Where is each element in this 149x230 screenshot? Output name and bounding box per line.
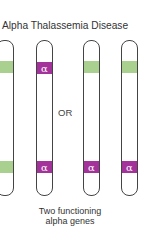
caption-line-2: alpha genes xyxy=(28,216,112,226)
or-separator: OR xyxy=(58,107,72,118)
alpha-symbol: α xyxy=(126,162,133,173)
chromosome-4: α xyxy=(121,40,138,196)
diagram-title: Alpha Thalassemia Disease xyxy=(2,20,149,31)
functional-gene-band xyxy=(0,161,13,173)
functional-gene-band xyxy=(122,61,137,73)
alpha-gene-band: α xyxy=(37,161,52,173)
alpha-symbol: α xyxy=(41,63,48,74)
chromosome-3: α xyxy=(83,40,100,196)
alpha-symbol: α xyxy=(41,162,48,173)
chromosome-2: α α xyxy=(36,40,53,196)
alpha-gene-band: α xyxy=(37,62,52,74)
chromosome-1 xyxy=(0,40,14,196)
alpha-gene-band: α xyxy=(84,161,99,173)
caption: Two functioning alpha genes xyxy=(28,206,112,226)
functional-gene-band xyxy=(0,61,13,73)
caption-line-1: Two functioning xyxy=(28,206,112,216)
alpha-symbol: α xyxy=(88,162,95,173)
alpha-gene-band: α xyxy=(122,161,137,173)
functional-gene-band xyxy=(84,61,99,73)
